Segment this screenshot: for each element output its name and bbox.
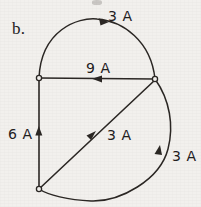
bottom-left-node [36, 186, 41, 191]
right-node [152, 76, 157, 81]
diagonal-label: 3 A [107, 128, 132, 142]
horizontal-chord-label: 9 A [86, 61, 111, 75]
left-vertical-label: 6 A [8, 127, 33, 141]
right-arc-label: 3 A [172, 149, 197, 163]
diagonal-arrowhead [87, 131, 97, 140]
right-arc-arrowhead [155, 145, 163, 155]
diagonal-path [39, 80, 155, 189]
horizontal-chord-arrowhead [92, 76, 102, 83]
part-label: b. [12, 20, 25, 37]
circuit-diagram-svg [0, 0, 201, 207]
right-bottom-arc-path [39, 79, 171, 201]
top-arc-label: 3 A [108, 9, 133, 23]
left-vertical-arrowhead [35, 126, 42, 136]
top-left-node [36, 75, 41, 80]
figure-container: b. 3 A 9 A 6 A 3 A 3 A [0, 0, 201, 207]
